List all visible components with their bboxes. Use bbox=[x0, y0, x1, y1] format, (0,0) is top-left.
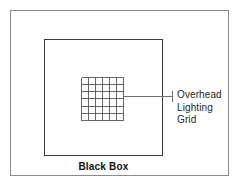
callout-label-line-2: Lighting bbox=[177, 102, 241, 115]
callout-label: Overhead Lighting Grid bbox=[177, 89, 241, 127]
callout-leader-line bbox=[124, 96, 173, 97]
callout-label-line-1: Overhead bbox=[177, 89, 241, 102]
outer-frame-border: Overhead Lighting Grid Black Box bbox=[10, 10, 229, 176]
grid-svg bbox=[81, 77, 124, 121]
overhead-lighting-grid bbox=[81, 77, 124, 121]
callout-label-line-3: Grid bbox=[177, 114, 241, 127]
callout-leader-tick bbox=[172, 91, 173, 102]
diagram-canvas: Overhead Lighting Grid Black Box bbox=[0, 0, 241, 186]
black-box-caption: Black Box bbox=[44, 161, 163, 172]
